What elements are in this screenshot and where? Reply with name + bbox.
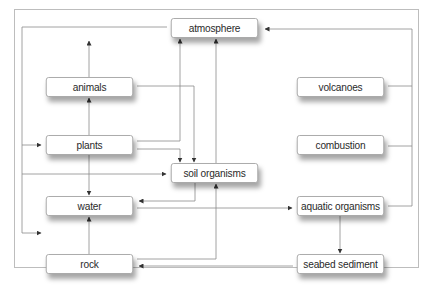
node-soil-organisms: soil organisms xyxy=(171,163,258,183)
node-rock: rock xyxy=(46,254,133,274)
node-water: water xyxy=(46,196,133,216)
node-combustion: combustion xyxy=(297,135,384,155)
node-volcanoes: volcanoes xyxy=(297,77,384,97)
node-seabed-sediment: seabed sediment xyxy=(297,254,384,274)
node-atmosphere: atmosphere xyxy=(171,18,258,38)
node-plants: plants xyxy=(46,135,133,155)
node-aquatic-organisms: aquatic organisms xyxy=(297,196,384,216)
node-animals: animals xyxy=(46,77,133,97)
